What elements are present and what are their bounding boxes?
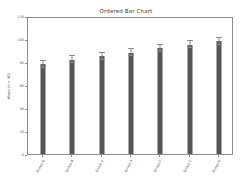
chart-title: Ordered Bar Chart bbox=[0, 8, 252, 15]
x-tick-label-text: Group B bbox=[65, 159, 75, 173]
bar-group[interactable] bbox=[152, 18, 168, 154]
bars-layer bbox=[28, 18, 232, 154]
bar-group[interactable] bbox=[64, 18, 80, 154]
bar[interactable] bbox=[70, 60, 75, 154]
bar-group[interactable] bbox=[182, 18, 198, 154]
error-cap-top bbox=[69, 55, 75, 56]
y-tick-label: 120 bbox=[18, 15, 24, 19]
error-cap-top bbox=[216, 37, 222, 38]
bar[interactable] bbox=[129, 53, 134, 154]
y-axis-ticks: 020406080100120 bbox=[0, 17, 27, 155]
error-cap-bottom bbox=[216, 44, 222, 45]
bar[interactable] bbox=[158, 48, 163, 154]
bar[interactable] bbox=[40, 64, 45, 154]
y-tick-label: 40 bbox=[20, 107, 24, 111]
bar-group[interactable] bbox=[211, 18, 227, 154]
y-tick-label: 20 bbox=[20, 130, 24, 134]
x-tick-label-text: Group G bbox=[35, 159, 45, 173]
error-cap-top bbox=[40, 60, 46, 61]
x-axis-ticks: Group GGroup BGroup EGroup AGroup FGroup… bbox=[27, 155, 233, 187]
x-tick-label-text: Group D bbox=[212, 159, 222, 173]
y-tick-label: 80 bbox=[20, 61, 24, 65]
error-cap-bottom bbox=[157, 51, 163, 52]
error-cap-top bbox=[157, 44, 163, 45]
error-cap-top bbox=[99, 52, 105, 53]
bar-group[interactable] bbox=[94, 18, 110, 154]
bar-group[interactable] bbox=[123, 18, 139, 154]
bar[interactable] bbox=[99, 56, 104, 154]
error-cap-bottom bbox=[69, 62, 75, 63]
x-tick-label-text: Group E bbox=[94, 159, 104, 173]
plot-area bbox=[27, 17, 233, 155]
error-cap-bottom bbox=[40, 67, 46, 68]
y-tick-label: 0 bbox=[22, 153, 24, 157]
x-tick-label-text: Group C bbox=[182, 159, 192, 173]
error-cap-top bbox=[128, 48, 134, 49]
error-cap-top bbox=[187, 40, 193, 41]
x-tick-label-text: Group F bbox=[153, 159, 163, 173]
y-tick-label: 60 bbox=[20, 84, 24, 88]
error-cap-bottom bbox=[99, 59, 105, 60]
error-cap-bottom bbox=[128, 55, 134, 56]
chart-figure: Ordered Bar Chart Mean (n = 40) 02040608… bbox=[0, 0, 252, 187]
x-tick-label-text: Group A bbox=[124, 159, 134, 173]
error-cap-bottom bbox=[187, 47, 193, 48]
bar[interactable] bbox=[187, 45, 192, 154]
bar[interactable] bbox=[217, 41, 222, 154]
y-tick-label: 100 bbox=[18, 38, 24, 42]
bar-group[interactable] bbox=[35, 18, 51, 154]
